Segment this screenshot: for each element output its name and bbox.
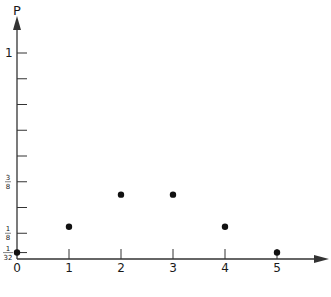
y-tick-label-denominator: 8 (6, 234, 10, 242)
data-point (222, 224, 228, 230)
x-tick-label: 3 (169, 261, 177, 275)
data-point (118, 191, 124, 197)
data-point (274, 249, 280, 255)
data-point (14, 249, 20, 255)
y-tick-label-numerator: 1 (6, 245, 10, 253)
y-ticks: 13218381 (3, 46, 27, 262)
x-axis-arrow (314, 255, 329, 263)
x-tick-label: 5 (273, 261, 281, 275)
y-tick-label-numerator: 3 (6, 174, 10, 182)
data-point (66, 224, 72, 230)
x-tick-label: 4 (221, 261, 229, 275)
chart: 13218381 012345 P (0, 0, 331, 297)
y-tick-label: 1 (5, 46, 13, 60)
data-points (14, 191, 280, 255)
y-tick-label-numerator: 1 (6, 225, 10, 233)
x-tick-label: 1 (65, 261, 73, 275)
x-tick-label: 0 (13, 261, 21, 275)
y-axis-arrow (13, 16, 21, 30)
x-tick-label: 2 (117, 261, 125, 275)
axes (13, 16, 329, 263)
y-tick-label-denominator: 8 (6, 183, 10, 191)
y-axis-label: P (13, 3, 21, 18)
data-point (170, 191, 176, 197)
y-tick-label-denominator: 32 (4, 254, 13, 262)
x-ticks: 012345 (13, 249, 281, 275)
